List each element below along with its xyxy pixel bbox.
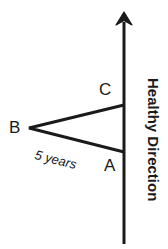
vertex-label-a: A: [104, 157, 115, 174]
trajectory-path: [29, 105, 124, 152]
vertex-label-b: B: [9, 119, 20, 136]
diagram-canvas: C B A 5 years Healthy Direction: [0, 0, 168, 249]
diagram-graphic: [0, 0, 168, 249]
vertex-label-c: C: [99, 81, 111, 98]
axis-label-healthy-direction: Healthy Direction: [144, 78, 162, 202]
